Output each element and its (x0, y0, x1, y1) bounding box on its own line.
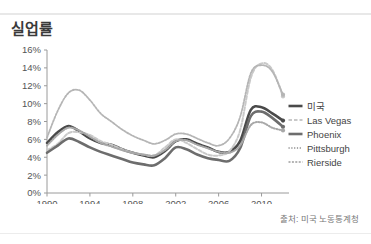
x-tick-label: 2002 (165, 198, 186, 204)
y-tick-label: 2% (27, 170, 41, 181)
y-tick-label: 8% (27, 116, 41, 127)
y-tick-label: 12% (22, 80, 42, 91)
header-divider (0, 13, 371, 15)
series-endpoint-marker (281, 125, 285, 129)
legend-item-label: Pittsburgh (307, 143, 350, 154)
x-tick-label: 1990 (36, 198, 57, 204)
legend-line-icon (288, 129, 303, 139)
y-tick-label: 0% (27, 187, 41, 198)
series-endpoint-marker (281, 119, 285, 123)
legend-item[interactable]: 미국 (288, 100, 351, 112)
legend-line-icon (288, 115, 303, 125)
x-tick-label: 2010 (251, 198, 272, 204)
x-tick-label: 1998 (122, 198, 143, 204)
y-tick-label: 4% (27, 152, 41, 163)
footer-divider (0, 233, 371, 234)
legend-line-icon (288, 157, 303, 167)
source-note: 출처: 미국 노동통계청 (280, 212, 359, 224)
legend-item-label: Phoenix (307, 129, 341, 140)
legend-item-label: Las Vegas (307, 115, 351, 126)
legend-line-icon (288, 143, 303, 153)
y-axis-labels: 0%2%4%6%8%10%12%14%16% (22, 44, 42, 198)
data-series-group (47, 63, 285, 166)
series-line (47, 63, 283, 156)
series-endpoint-marker (281, 128, 285, 132)
legend-item[interactable]: Pittsburgh (288, 142, 351, 154)
chart-legend: 미국Las VegasPhoenixPittsburghRierside (288, 100, 351, 168)
y-tick-label: 10% (22, 98, 42, 109)
y-tick-label: 14% (22, 62, 42, 73)
y-tick-label: 6% (27, 134, 41, 145)
legend-item-label: Rierside (307, 157, 342, 168)
legend-item[interactable]: Rierside (288, 156, 351, 168)
y-tick-label: 16% (22, 44, 42, 55)
legend-line-icon (288, 101, 303, 111)
legend-item-label: 미국 (307, 101, 325, 112)
series-endpoint-marker (281, 93, 285, 97)
x-axis-labels: 199019941998200220062010 (36, 198, 272, 204)
legend-item[interactable]: Phoenix (288, 128, 351, 140)
x-tick-label: 1994 (79, 198, 100, 204)
page-title: 실업률 (11, 17, 52, 38)
legend-item[interactable]: Las Vegas (288, 114, 351, 126)
x-tick-label: 2006 (208, 198, 229, 204)
